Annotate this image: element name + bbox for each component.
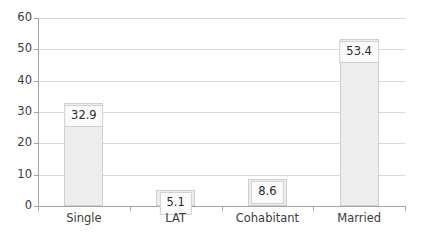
bar (340, 39, 379, 206)
gridline (38, 18, 405, 19)
y-axis-tick-label: 10 (0, 169, 32, 181)
y-axis-line (38, 18, 39, 207)
bar-value-label: 53.4 (339, 41, 379, 64)
x-axis-tick-mark (222, 207, 223, 211)
y-axis-tick-label: 40 (0, 75, 32, 87)
x-axis-tick-mark (130, 207, 131, 211)
x-axis-category-label: Married (337, 213, 381, 225)
bar-value-label: 8.6 (251, 181, 283, 204)
x-axis-category-label: Cohabitant (236, 213, 299, 225)
y-axis-tick-label: 50 (0, 44, 32, 56)
y-axis-tick-label: 20 (0, 138, 32, 150)
y-axis-tick-label: 60 (0, 12, 32, 24)
x-axis-category-label: LAT (165, 213, 186, 225)
x-axis-tick-mark (38, 207, 39, 211)
x-axis-category-label: Single (66, 213, 101, 225)
bar-value-label: 32.9 (64, 105, 104, 128)
y-axis-tick-label: 30 (0, 106, 32, 118)
x-axis-tick-mark (313, 207, 314, 211)
x-axis-tick-mark (405, 207, 406, 211)
bar-chart: 0102030405060 32.95.18.653.4 SingleLATCo… (0, 0, 421, 239)
y-axis-tick-labels: 0102030405060 (0, 0, 32, 239)
y-axis-tick-label: 0 (0, 200, 32, 212)
